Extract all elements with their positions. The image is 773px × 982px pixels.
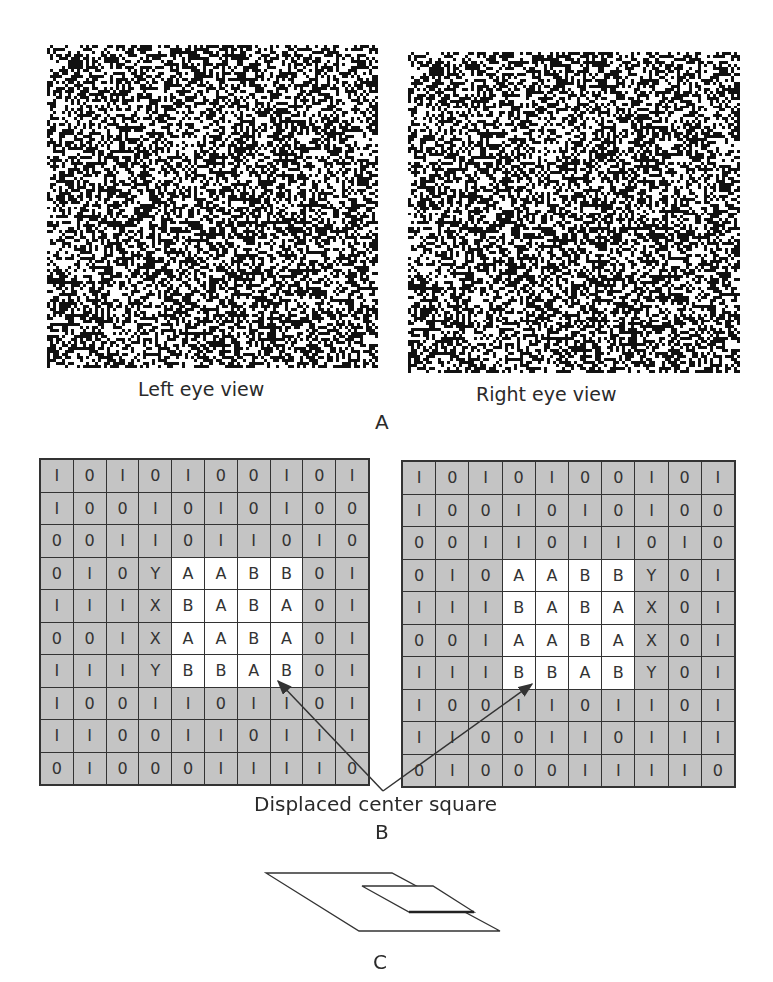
right-cell: 0: [436, 625, 468, 657]
right-cell: B: [602, 657, 634, 689]
raised-center-square: [362, 886, 474, 912]
right-cell: I: [702, 560, 734, 592]
left-cell: 0: [107, 688, 139, 720]
left-cell: A: [271, 623, 303, 655]
right-cell: I: [436, 755, 468, 787]
right-cell: 0: [669, 592, 701, 624]
right-cell: I: [669, 755, 701, 787]
panel-b-letter: B: [375, 820, 389, 844]
left-cell: I: [271, 720, 303, 752]
left-cell: 0: [336, 493, 368, 525]
left-cell: I: [172, 688, 204, 720]
right-cell: 0: [702, 495, 734, 527]
right-cell: 0: [403, 755, 435, 787]
left-cell: I: [139, 688, 171, 720]
background-plane: [266, 873, 500, 931]
left-cell: 0: [172, 753, 204, 785]
left-cell: I: [205, 525, 237, 557]
left-cell: Y: [139, 655, 171, 687]
right-cell: A: [602, 592, 634, 624]
left-cell: A: [271, 590, 303, 622]
right-cell: Y: [635, 657, 667, 689]
right-cell: 0: [536, 755, 568, 787]
left-cell: Y: [139, 558, 171, 590]
right-cell: X: [635, 625, 667, 657]
right-cell: I: [569, 495, 601, 527]
right-eye-random-dot-image: [408, 52, 740, 373]
right-cell: 0: [669, 462, 701, 494]
left-cell: I: [205, 753, 237, 785]
right-cell: I: [503, 690, 535, 722]
left-cell: I: [271, 688, 303, 720]
left-cell: 0: [336, 753, 368, 785]
left-cell: 0: [303, 590, 335, 622]
right-cell: I: [403, 462, 435, 494]
left-cell: 0: [238, 460, 270, 492]
left-cell: I: [336, 655, 368, 687]
left-cell: A: [205, 590, 237, 622]
left-cell: I: [172, 460, 204, 492]
left-eye-view-label: Left eye view: [138, 378, 264, 400]
left-cell: 0: [107, 753, 139, 785]
left-cell: I: [336, 558, 368, 590]
left-cell: I: [74, 558, 106, 590]
left-cell: 0: [139, 753, 171, 785]
right-cell: 0: [569, 462, 601, 494]
left-cell: I: [303, 720, 335, 752]
right-cell: 0: [403, 625, 435, 657]
right-cell: I: [635, 495, 667, 527]
left-cell: I: [238, 688, 270, 720]
right-cell: A: [536, 625, 568, 657]
left-cell: I: [172, 720, 204, 752]
left-cell: 0: [107, 720, 139, 752]
right-cell: I: [436, 657, 468, 689]
right-cell: I: [403, 722, 435, 754]
left-cell: I: [336, 590, 368, 622]
right-cell: I: [702, 722, 734, 754]
left-cell: 0: [74, 460, 106, 492]
right-cell: Y: [635, 560, 667, 592]
panel-c-letter: C: [373, 950, 387, 974]
right-cell: 0: [403, 560, 435, 592]
right-cell: 0: [635, 527, 667, 559]
left-cell: I: [271, 493, 303, 525]
right-cell: B: [602, 560, 634, 592]
left-cell: A: [238, 655, 270, 687]
right-cell: I: [469, 462, 501, 494]
left-cell: A: [205, 623, 237, 655]
right-cell: 0: [436, 690, 468, 722]
right-cell: B: [569, 592, 601, 624]
left-cell: B: [205, 655, 237, 687]
left-cell: I: [139, 525, 171, 557]
left-cell: I: [41, 655, 73, 687]
right-cell: I: [536, 690, 568, 722]
right-cell: B: [569, 560, 601, 592]
right-cell: A: [602, 625, 634, 657]
right-cell: 0: [503, 722, 535, 754]
left-cell: B: [172, 590, 204, 622]
left-cell: I: [41, 688, 73, 720]
left-cell: B: [238, 623, 270, 655]
right-cell: 0: [469, 560, 501, 592]
right-cell: 0: [602, 495, 634, 527]
left-cell: I: [107, 460, 139, 492]
left-cell: I: [107, 623, 139, 655]
left-cell: I: [205, 493, 237, 525]
left-cell: 0: [172, 525, 204, 557]
left-cell: I: [336, 688, 368, 720]
left-cell: I: [74, 590, 106, 622]
right-cell: A: [569, 657, 601, 689]
panel-a-letter: A: [375, 410, 389, 434]
right-cell: 0: [403, 527, 435, 559]
right-cell: I: [702, 625, 734, 657]
right-cell: I: [569, 755, 601, 787]
right-cell: I: [536, 462, 568, 494]
right-cell: 0: [469, 495, 501, 527]
right-cell: 0: [536, 527, 568, 559]
right-cell: B: [503, 592, 535, 624]
right-cell: I: [635, 722, 667, 754]
left-cell: 0: [205, 688, 237, 720]
right-cell: I: [536, 722, 568, 754]
left-cell: 0: [74, 688, 106, 720]
right-cell: 0: [436, 495, 468, 527]
